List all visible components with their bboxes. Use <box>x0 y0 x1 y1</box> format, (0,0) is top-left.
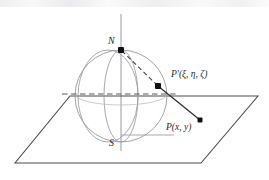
plane-point-marker <box>198 118 203 123</box>
figure-canvas <box>0 0 269 180</box>
projection-plane <box>15 96 258 163</box>
south-pole-label: S <box>109 138 114 148</box>
projection-ray-dashed <box>122 51 157 85</box>
projection-ray-solid <box>158 86 200 120</box>
north-pole-label: N <box>108 36 115 46</box>
sphere-point-label: P′(ξ, η, ζ) <box>171 70 207 80</box>
plane-point-label: P(x, y) <box>166 123 191 133</box>
stereographic-projection-figure: N S P′(ξ, η, ζ) P(x, y) <box>0 0 269 180</box>
sphere-point-marker <box>155 83 161 89</box>
north-pole-point <box>118 47 124 53</box>
